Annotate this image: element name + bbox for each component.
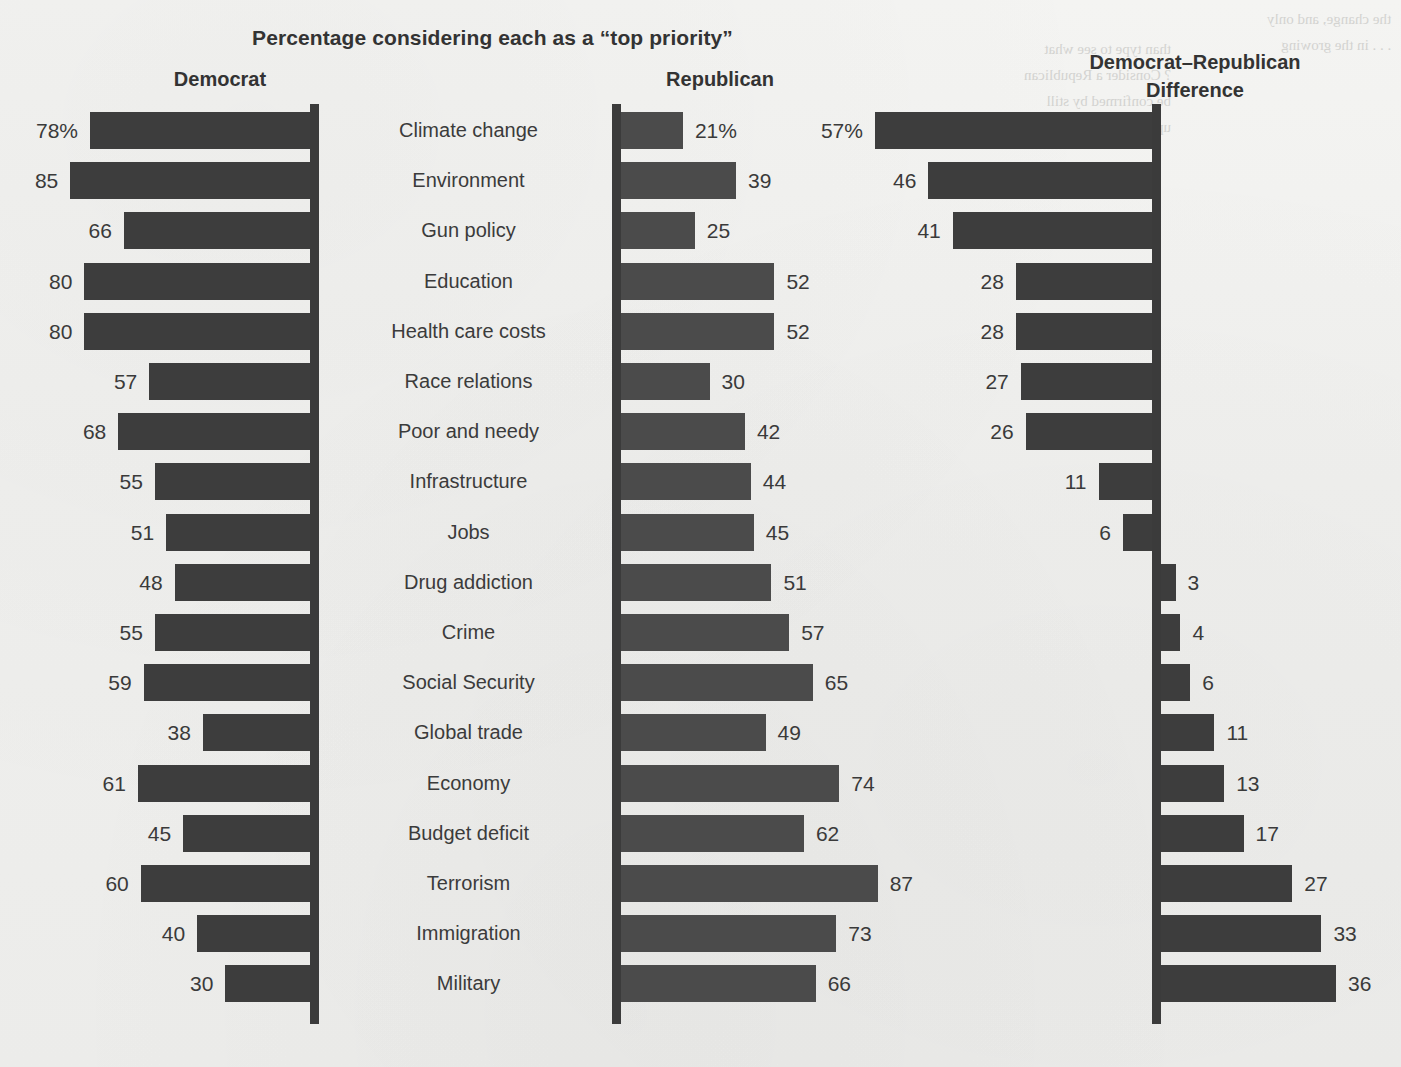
category-label: Global trade: [325, 714, 612, 751]
bar-value-difference: 36: [1348, 965, 1371, 1002]
bar-row: 80Education5228: [0, 263, 1401, 300]
bar-row: 68Poor and needy4226: [0, 413, 1401, 450]
bar-value-democrat: 38: [0, 714, 191, 751]
bar-value-democrat: 45: [0, 815, 171, 852]
bar-row: 60Terrorism8727: [0, 865, 1401, 902]
bar-difference-democrat-lead: [1016, 263, 1152, 300]
bar-value-republican: 62: [816, 815, 839, 852]
chart-title: Percentage considering each as a “top pr…: [0, 26, 985, 50]
bar-value-difference: 28: [0, 263, 1004, 300]
bar-value-difference: 27: [0, 363, 1009, 400]
category-label: Economy: [325, 765, 612, 802]
bar-difference-democrat-lead: [1026, 413, 1152, 450]
category-label: Terrorism: [325, 865, 612, 902]
bar-value-difference: 57%: [0, 112, 863, 149]
bar-difference-republican-lead: [1161, 614, 1180, 651]
bar-democrat: [175, 564, 310, 601]
bar-difference-democrat-lead: [1016, 313, 1152, 350]
bar-republican: [621, 564, 771, 601]
category-label: Drug addiction: [325, 564, 612, 601]
bar-difference-democrat-lead: [953, 212, 1152, 249]
bar-difference-republican-lead: [1161, 664, 1190, 701]
bar-value-republican: 57: [801, 614, 824, 651]
bar-value-democrat: 48: [0, 564, 163, 601]
bar-republican: [621, 664, 813, 701]
bar-republican: [621, 815, 804, 852]
bar-difference-republican-lead: [1161, 714, 1214, 751]
bar-republican: [621, 915, 836, 952]
column-header-democrat: Democrat: [120, 68, 320, 91]
bar-difference-republican-lead: [1161, 915, 1321, 952]
bar-row: 55Infrastructure4411: [0, 463, 1401, 500]
bar-difference-democrat-lead: [875, 112, 1152, 149]
bar-democrat: [183, 815, 310, 852]
bar-value-difference: 3: [1188, 564, 1200, 601]
bar-democrat: [141, 865, 310, 902]
bar-value-difference: 26: [0, 413, 1014, 450]
bar-value-democrat: 61: [0, 765, 126, 802]
bar-row: 38Global trade4911: [0, 714, 1401, 751]
category-label: Crime: [325, 614, 612, 651]
bar-difference-democrat-lead: [1123, 514, 1152, 551]
bar-value-republican: 87: [890, 865, 913, 902]
bar-row: 51Jobs456: [0, 514, 1401, 551]
bar-difference-democrat-lead: [1099, 463, 1152, 500]
bar-value-republican: 49: [778, 714, 801, 751]
bar-value-difference: 11: [0, 463, 1087, 500]
bar-difference-republican-lead: [1161, 965, 1336, 1002]
bar-difference-republican-lead: [1161, 765, 1224, 802]
bar-difference-democrat-lead: [1021, 363, 1152, 400]
bar-democrat: [203, 714, 310, 751]
bar-democrat: [138, 765, 310, 802]
bar-value-democrat: 55: [0, 614, 143, 651]
bar-row: 61Economy7413: [0, 765, 1401, 802]
column-header-difference-line1: Democrat–Republican: [1035, 48, 1355, 76]
bar-row: 80Health care costs5228: [0, 313, 1401, 350]
priority-bar-chart: Percentage considering each as a “top pr…: [0, 0, 1401, 1067]
bar-value-difference: 33: [1333, 915, 1356, 952]
bar-value-difference: 13: [1236, 765, 1259, 802]
bar-republican: [621, 614, 789, 651]
bar-row: 59Social Security656: [0, 664, 1401, 701]
bar-difference-republican-lead: [1161, 815, 1244, 852]
category-label: Military: [325, 965, 612, 1002]
bar-value-difference: 27: [1304, 865, 1327, 902]
bar-republican: [621, 965, 816, 1002]
bar-republican: [621, 765, 839, 802]
bar-value-democrat: 59: [0, 664, 132, 701]
bar-value-democrat: 60: [0, 865, 129, 902]
bar-republican: [621, 865, 878, 902]
bar-value-difference: 6: [1202, 664, 1214, 701]
bar-row: 66Gun policy2541: [0, 212, 1401, 249]
bar-row: 48Drug addiction513: [0, 564, 1401, 601]
bar-difference-republican-lead: [1161, 865, 1292, 902]
bar-row: 85Environment3946: [0, 162, 1401, 199]
bar-difference-republican-lead: [1161, 564, 1176, 601]
category-label: Social Security: [325, 664, 612, 701]
bar-value-difference: 4: [1192, 614, 1204, 651]
bar-row: 40Immigration7333: [0, 915, 1401, 952]
column-header-difference-line2: Difference: [1035, 76, 1355, 104]
category-label: Budget deficit: [325, 815, 612, 852]
bar-row: 30Military6636: [0, 965, 1401, 1002]
bar-value-republican: 51: [783, 564, 806, 601]
bar-value-difference: 41: [0, 212, 941, 249]
bar-value-democrat: 40: [0, 915, 185, 952]
bar-row: 55Crime574: [0, 614, 1401, 651]
bar-difference-democrat-lead: [928, 162, 1152, 199]
column-header-difference: Democrat–Republican Difference: [1035, 48, 1355, 104]
bar-democrat: [144, 664, 310, 701]
bar-republican: [621, 714, 766, 751]
bar-value-republican: 65: [825, 664, 848, 701]
bar-value-difference: 17: [1256, 815, 1279, 852]
bar-row: 45Budget deficit6217: [0, 815, 1401, 852]
bar-value-democrat: 30: [0, 965, 213, 1002]
bar-row: 78%Climate change21%57%: [0, 112, 1401, 149]
bar-value-republican: 73: [848, 915, 871, 952]
bar-value-difference: 11: [1226, 714, 1248, 751]
bar-row: 57Race relations3027: [0, 363, 1401, 400]
bar-value-republican: 74: [851, 765, 874, 802]
bar-value-difference: 6: [0, 514, 1111, 551]
bar-value-difference: 46: [0, 162, 916, 199]
bar-value-difference: 28: [0, 313, 1004, 350]
